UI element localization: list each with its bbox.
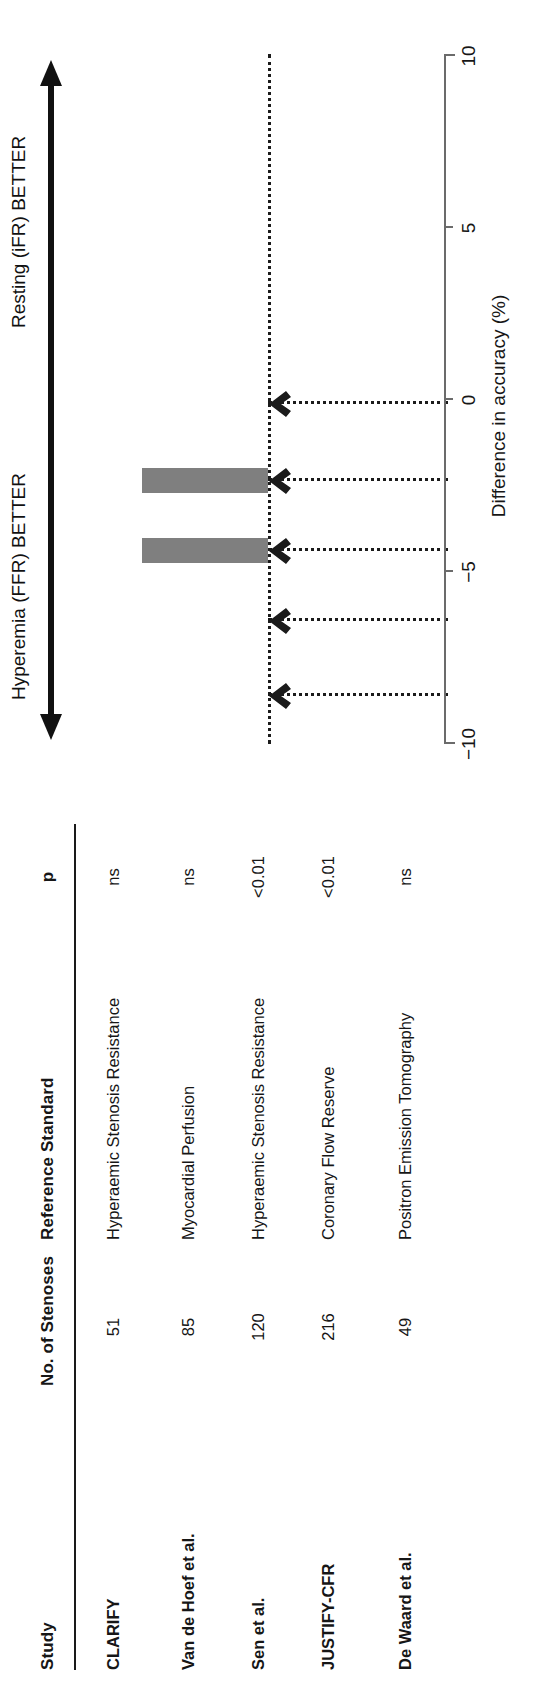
x-tick xyxy=(444,398,453,400)
study-marker-sen xyxy=(269,538,291,564)
x-tick-label: 5 xyxy=(458,223,480,234)
cell-study: Sen et al. xyxy=(249,1598,268,1670)
study-marker-van-de-hoef xyxy=(269,608,291,634)
cell-reference: Coronary Flow Reserve xyxy=(319,1067,338,1240)
x-tick xyxy=(444,226,453,228)
table-row: CLARIFY 51 Hyperaemic Stenosis Resistanc… xyxy=(104,824,162,1670)
chevron-up-icon xyxy=(269,683,291,709)
figure-panel: Study No. of Stenoses Reference Standard… xyxy=(0,0,536,1688)
cell-stenoses: 85 xyxy=(179,1268,198,1386)
x-tick xyxy=(444,742,453,744)
hyperemia-better-label: Hyperemia (FFR) BETTER xyxy=(8,473,30,700)
chevron-up-icon xyxy=(269,608,291,634)
cell-p: <0.01 xyxy=(319,844,338,910)
x-tick-label: −10 xyxy=(458,728,480,760)
leader-line xyxy=(268,401,448,404)
arrow-left-icon xyxy=(40,400,62,740)
x-tick-label: 10 xyxy=(458,45,480,66)
figure-rotor: Study No. of Stenoses Reference Standard… xyxy=(0,0,536,1688)
plot-area: −10 −5 0 5 10 Difference in accuracy (%)… xyxy=(0,16,536,796)
cell-p: ns xyxy=(396,844,415,910)
study-table: Study No. of Stenoses Reference Standard… xyxy=(38,824,490,1670)
column-header-p: p xyxy=(38,844,58,910)
cell-study: JUSTIFY-CFR xyxy=(319,1564,338,1670)
cell-reference: Hyperaemic Stenosis Resistance xyxy=(249,998,268,1240)
resting-better-label: Resting (iFR) BETTER xyxy=(8,136,30,328)
x-tick-label: 0 xyxy=(458,395,480,406)
resting-better-arrow xyxy=(40,60,62,400)
cell-reference: Hyperaemic Stenosis Resistance xyxy=(104,998,123,1240)
bar-sen xyxy=(142,538,268,563)
cell-reference: Positron Emission Tomography xyxy=(396,1013,415,1240)
leader-line xyxy=(268,618,448,621)
table-row: Sen et al. 120 Hyperaemic Stenosis Resis… xyxy=(249,824,307,1670)
arrow-right-icon xyxy=(40,60,62,400)
table-header-rule xyxy=(74,824,76,1670)
x-tick-label: −5 xyxy=(458,561,480,583)
column-header-reference: Reference Standard xyxy=(38,1078,58,1240)
cell-stenoses: 216 xyxy=(319,1268,338,1386)
column-header-study: Study xyxy=(38,1622,58,1670)
cell-study: CLARIFY xyxy=(104,1599,123,1671)
table-header-row: Study No. of Stenoses Reference Standard… xyxy=(38,824,72,1670)
table-row: JUSTIFY-CFR 216 Coronary Flow Reserve <0… xyxy=(319,824,377,1670)
leader-line xyxy=(268,548,448,551)
chevron-up-icon xyxy=(269,468,291,494)
cell-stenoses: 120 xyxy=(249,1268,268,1386)
table-row: De Waard et al. 49 Positron Emission Tom… xyxy=(396,824,454,1670)
column-header-stenoses: No. of Stenoses xyxy=(38,1268,58,1386)
x-tick xyxy=(444,54,453,56)
cell-study: Van de Hoef et al. xyxy=(179,1533,198,1670)
cell-p: ns xyxy=(104,844,123,910)
bar-justify-cfr xyxy=(142,468,268,493)
leader-line xyxy=(268,693,448,696)
study-marker-clarify xyxy=(269,683,291,709)
x-axis-title: Difference in accuracy (%) xyxy=(488,16,510,796)
leader-line xyxy=(268,478,448,481)
accuracy-difference-chart: −10 −5 0 5 10 Difference in accuracy (%)… xyxy=(0,16,536,796)
cell-reference: Myocardial Perfusion xyxy=(179,1086,198,1240)
cell-stenoses: 51 xyxy=(104,1268,123,1386)
study-marker-de-waard xyxy=(269,391,291,417)
cell-p: ns xyxy=(179,844,198,910)
cell-study: De Waard et al. xyxy=(396,1552,415,1670)
study-marker-justify-cfr xyxy=(269,468,291,494)
cell-p: <0.01 xyxy=(249,844,268,910)
chevron-up-icon xyxy=(269,538,291,564)
cell-stenoses: 49 xyxy=(396,1268,415,1386)
table-row: Van de Hoef et al. 85 Myocardial Perfusi… xyxy=(179,824,237,1670)
x-tick xyxy=(444,570,453,572)
chevron-up-icon xyxy=(269,391,291,417)
hyperemia-better-arrow xyxy=(40,400,62,740)
